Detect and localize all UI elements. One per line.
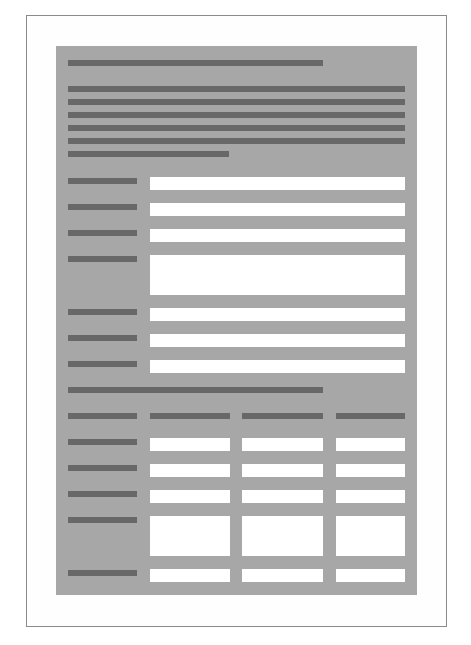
table-cell[interactable] bbox=[242, 464, 323, 477]
field-label bbox=[68, 256, 137, 262]
table-cell[interactable] bbox=[336, 438, 405, 451]
table-cell[interactable] bbox=[336, 569, 405, 582]
paragraph-line bbox=[68, 86, 405, 92]
table-cell-multiline[interactable] bbox=[150, 516, 230, 556]
text-field[interactable] bbox=[150, 334, 405, 347]
text-field[interactable] bbox=[150, 308, 405, 321]
row-label bbox=[68, 439, 137, 445]
text-field[interactable] bbox=[150, 360, 405, 373]
column-header bbox=[336, 413, 405, 419]
row-label bbox=[68, 491, 137, 497]
row-label bbox=[68, 465, 137, 471]
table-cell[interactable] bbox=[150, 464, 230, 477]
paragraph-line bbox=[68, 138, 405, 144]
table-cell[interactable] bbox=[150, 490, 230, 503]
column-header bbox=[150, 413, 230, 419]
field-label bbox=[68, 178, 137, 184]
field-label bbox=[68, 204, 137, 210]
text-field[interactable] bbox=[150, 177, 405, 190]
title-placeholder bbox=[68, 60, 323, 66]
row-label bbox=[68, 517, 137, 523]
table-cell[interactable] bbox=[242, 569, 323, 582]
field-label bbox=[68, 309, 137, 315]
column-header bbox=[242, 413, 323, 419]
table-cell[interactable] bbox=[242, 438, 323, 451]
field-label bbox=[68, 335, 137, 341]
section-heading-placeholder bbox=[68, 387, 323, 393]
table-cell[interactable] bbox=[242, 490, 323, 503]
paragraph-line bbox=[68, 112, 405, 118]
table-cell[interactable] bbox=[150, 438, 230, 451]
textarea-field[interactable] bbox=[150, 255, 405, 295]
paragraph-line bbox=[68, 125, 405, 131]
table-cell-multiline[interactable] bbox=[242, 516, 323, 556]
text-field[interactable] bbox=[150, 229, 405, 242]
table-cell[interactable] bbox=[150, 569, 230, 582]
table-cell[interactable] bbox=[336, 464, 405, 477]
paragraph-line bbox=[68, 99, 405, 105]
field-label bbox=[68, 361, 137, 367]
table-cell-multiline[interactable] bbox=[336, 516, 405, 556]
table-header-label bbox=[68, 413, 137, 419]
table-cell[interactable] bbox=[336, 490, 405, 503]
field-label bbox=[68, 230, 137, 236]
row-label bbox=[68, 570, 137, 576]
paragraph-line bbox=[68, 151, 229, 157]
text-field[interactable] bbox=[150, 203, 405, 216]
